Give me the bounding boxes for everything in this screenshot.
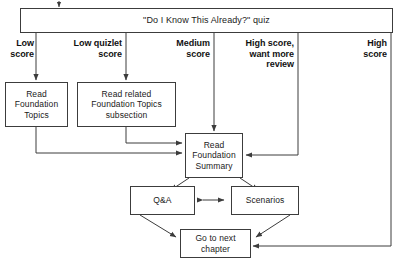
edge-topics-to-summary bbox=[36, 127, 182, 153]
label-medium-score: Medium score bbox=[160, 38, 210, 59]
flowchart-diagram: "Do I Know This Already?" quiz Low score… bbox=[0, 0, 400, 260]
edge-qanda-to-next bbox=[140, 215, 176, 237]
node-quiz[interactable]: "Do I Know This Already?" quiz bbox=[20, 8, 393, 33]
edge-scenarios-to-next bbox=[256, 215, 290, 237]
node-read-foundation-topics-label: Read Foundation Topics bbox=[6, 89, 67, 121]
node-quiz-label: "Do I Know This Already?" quiz bbox=[141, 15, 272, 26]
node-read-related-subsection-label: Read related Foundation Topics subsectio… bbox=[78, 89, 175, 121]
label-high-score: High score bbox=[348, 38, 387, 59]
edge-subsection-to-summary bbox=[126, 127, 182, 143]
label-low-score: Low score bbox=[2, 38, 34, 59]
node-read-foundation-topics[interactable]: Read Foundation Topics bbox=[5, 82, 68, 127]
label-high-score-want-more-review: High score, want more review bbox=[232, 38, 294, 70]
node-qanda[interactable]: Q&A bbox=[130, 186, 195, 215]
node-scenarios[interactable]: Scenarios bbox=[231, 186, 299, 215]
node-read-foundation-summary-label: Read Foundation Summary bbox=[186, 140, 242, 172]
node-read-related-subsection[interactable]: Read related Foundation Topics subsectio… bbox=[77, 82, 176, 127]
node-go-to-next-chapter[interactable]: Go to next chapter bbox=[180, 229, 251, 258]
node-scenarios-label: Scenarios bbox=[244, 195, 287, 206]
node-read-foundation-summary[interactable]: Read Foundation Summary bbox=[185, 133, 243, 178]
node-go-to-next-chapter-label: Go to next chapter bbox=[181, 233, 250, 254]
node-qanda-label: Q&A bbox=[151, 195, 173, 206]
label-low-quizlet-score: Low quizlet score bbox=[56, 38, 122, 59]
